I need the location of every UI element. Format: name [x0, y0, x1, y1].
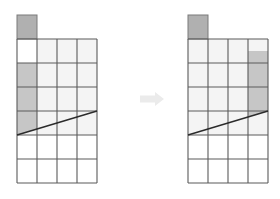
- before-shaded-cell-c0r2: [17, 87, 37, 111]
- before-top-block: [17, 15, 37, 39]
- after-partial-shaded-cell-c3r0: [248, 51, 268, 63]
- before-shaded-cell-c0r1: [17, 63, 37, 87]
- figure-canvas: [0, 0, 280, 199]
- before-empty-cell-c0r0: [17, 39, 37, 63]
- after-shaded-cell-c3r1: [248, 63, 268, 87]
- after-shaded-cell-c3r2: [248, 87, 268, 111]
- panel-before: [17, 15, 97, 183]
- after-top-block: [188, 15, 208, 39]
- panel-after: [188, 15, 268, 183]
- transformation-diagram: [0, 0, 280, 199]
